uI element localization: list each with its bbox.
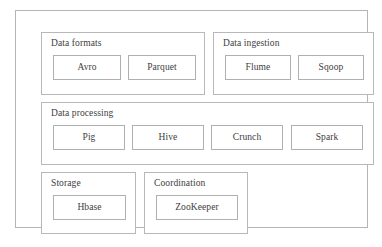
item-zookeeper[interactable]: ZooKeeper <box>156 195 238 220</box>
diagram-canvas: Data formats Avro Parquet Data ingestion… <box>0 0 382 247</box>
item-hive[interactable]: Hive <box>132 125 204 150</box>
group-data-ingestion: Data ingestion Flume Sqoop <box>213 32 374 95</box>
item-flume[interactable]: Flume <box>225 55 291 80</box>
group-storage: Storage Hbase <box>41 172 136 234</box>
item-avro[interactable]: Avro <box>53 55 121 80</box>
diagram-outer-frame: Data formats Avro Parquet Data ingestion… <box>15 10 368 228</box>
group-title-data-processing: Data processing <box>51 108 113 119</box>
group-title-storage: Storage <box>51 178 81 189</box>
item-spark[interactable]: Spark <box>291 125 363 150</box>
item-parquet[interactable]: Parquet <box>128 55 196 80</box>
group-title-coordination: Coordination <box>154 178 205 189</box>
item-pig[interactable]: Pig <box>53 125 125 150</box>
group-title-data-formats: Data formats <box>51 38 102 49</box>
group-title-data-ingestion: Data ingestion <box>223 38 280 49</box>
item-crunch[interactable]: Crunch <box>211 125 283 150</box>
group-coordination: Coordination ZooKeeper <box>144 172 248 234</box>
item-hbase[interactable]: Hbase <box>53 195 126 220</box>
group-data-processing: Data processing Pig Hive Crunch Spark <box>41 102 374 165</box>
item-sqoop[interactable]: Sqoop <box>298 55 364 80</box>
group-data-formats: Data formats Avro Parquet <box>41 32 205 95</box>
